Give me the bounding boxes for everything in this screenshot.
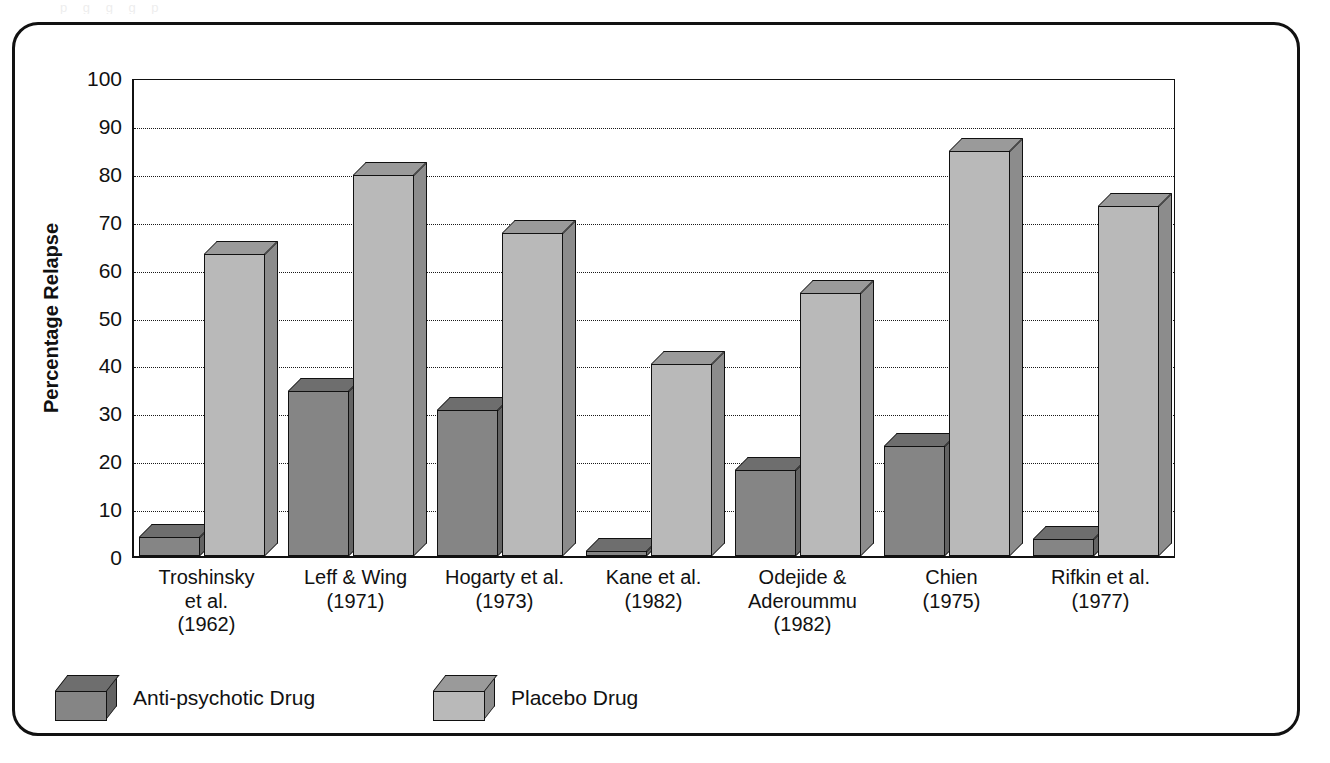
bar-group: [432, 80, 581, 556]
bar-placebo: [353, 162, 427, 556]
bar-front-face: [949, 151, 1010, 556]
bar-top-face: [800, 280, 874, 293]
x-axis-category-label: Troshinskyet al.(1962): [122, 566, 291, 637]
bar-side-face: [265, 241, 278, 556]
bar-front-face: [884, 446, 945, 556]
bar-front-face: [586, 551, 647, 556]
legend-swatch-icon: [55, 675, 117, 721]
y-axis-tick-30: 30: [60, 402, 122, 426]
category-label-line: Kane et al.: [569, 566, 738, 590]
bar-group: [1028, 80, 1177, 556]
bar-placebo: [651, 351, 725, 556]
bar-front-face: [800, 293, 861, 556]
category-label-line: et al.: [122, 590, 291, 614]
x-axis-category-label: Leff & Wing(1971): [271, 566, 440, 613]
category-label-line: (1982): [718, 613, 887, 637]
category-label-line: (1971): [271, 590, 440, 614]
bar-front-face: [735, 470, 796, 556]
bar-top-face: [139, 524, 213, 537]
bar-top-face: [288, 378, 362, 391]
category-label-line: Rifkin et al.: [1016, 566, 1185, 590]
bar-antipsychotic: [139, 524, 213, 556]
bar-top-face: [502, 220, 576, 233]
y-axis-tick-40: 40: [60, 354, 122, 378]
category-label-line: Leff & Wing: [271, 566, 440, 590]
category-label-line: (1975): [867, 590, 1036, 614]
bar-antipsychotic: [586, 538, 660, 556]
bar-antipsychotic: [288, 378, 362, 556]
x-axis-category-label: Chien(1975): [867, 566, 1036, 613]
bar-antipsychotic: [1033, 526, 1107, 556]
bar-front-face: [437, 410, 498, 556]
bar-front-face: [288, 391, 349, 556]
bar-placebo: [502, 220, 576, 556]
bar-group: [283, 80, 432, 556]
category-label-line: Hogarty et al.: [420, 566, 589, 590]
y-axis-tick-20: 20: [60, 450, 122, 474]
category-label-line: (1973): [420, 590, 589, 614]
bar-antipsychotic: [437, 397, 511, 556]
category-label-line: (1962): [122, 613, 291, 637]
bar-antipsychotic: [735, 457, 809, 556]
bar-top-face: [437, 397, 511, 410]
bar-side-face: [1159, 193, 1172, 556]
y-axis-tick-100: 100: [60, 67, 122, 91]
legend-item: Anti-psychotic Drug: [55, 675, 315, 721]
bar-front-face: [139, 537, 200, 556]
category-label-line: Odejide &: [718, 566, 887, 590]
legend-label: Anti-psychotic Drug: [133, 686, 315, 710]
bar-group: [134, 80, 283, 556]
y-axis-tick-70: 70: [60, 211, 122, 235]
x-axis-category-label: Odejide &Aderoummu(1982): [718, 566, 887, 637]
y-axis-tick-80: 80: [60, 163, 122, 187]
x-axis-category-label: Hogarty et al.(1973): [420, 566, 589, 613]
bar-side-face: [563, 220, 576, 556]
y-axis-tick-60: 60: [60, 259, 122, 283]
bar-side-face: [712, 351, 725, 556]
legend-label: Placebo Drug: [511, 686, 638, 710]
plot-area: [132, 79, 1175, 558]
bar-placebo: [800, 280, 874, 556]
bar-front-face: [1033, 539, 1094, 556]
legend-swatch-icon: [433, 675, 495, 721]
bar-front-face: [1098, 206, 1159, 556]
category-label-line: Aderoummu: [718, 590, 887, 614]
legend-swatch-front: [55, 691, 107, 721]
bar-front-face: [651, 364, 712, 556]
bar-side-face: [861, 280, 874, 556]
legend-item: Placebo Drug: [433, 675, 638, 721]
bar-front-face: [204, 254, 265, 556]
legend-swatch-front: [433, 691, 485, 721]
x-axis-category-label: Kane et al.(1982): [569, 566, 738, 613]
bar-front-face: [353, 175, 414, 556]
category-label-line: (1977): [1016, 590, 1185, 614]
bar-group: [581, 80, 730, 556]
bar-group: [879, 80, 1028, 556]
bar-top-face: [735, 457, 809, 470]
bar-group: [730, 80, 879, 556]
scanner-bleed-text: p g g g p: [60, 0, 1240, 14]
category-label-line: Chien: [867, 566, 1036, 590]
bar-front-face: [502, 233, 563, 556]
y-axis-tick-90: 90: [60, 115, 122, 139]
category-label-line: Troshinsky: [122, 566, 291, 590]
bar-placebo: [949, 138, 1023, 556]
bar-antipsychotic: [884, 433, 958, 556]
x-axis-category-label: Rifkin et al.(1977): [1016, 566, 1185, 613]
y-axis-tick-10: 10: [60, 498, 122, 522]
chart-frame: Percentage Relapse 100908070605040302010…: [12, 22, 1300, 736]
y-axis-tick-50: 50: [60, 307, 122, 331]
bar-top-face: [884, 433, 958, 446]
bar-side-face: [1010, 138, 1023, 556]
bar-placebo: [204, 241, 278, 556]
bar-placebo: [1098, 193, 1172, 556]
category-label-line: (1982): [569, 590, 738, 614]
y-axis-tick-0: 0: [60, 546, 122, 570]
bar-side-face: [414, 162, 427, 556]
